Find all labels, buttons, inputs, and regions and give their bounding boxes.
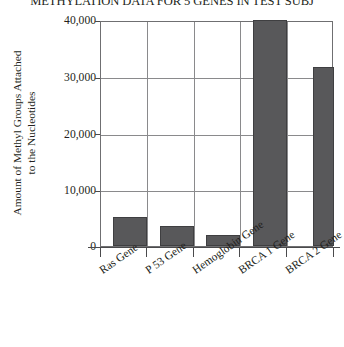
x-tick-mark-4 bbox=[286, 248, 287, 257]
y-axis-title-line-2: to the Nucleotides bbox=[24, 92, 38, 175]
chart-title: METHYLATION DATA FOR 5 GENES IN TEST SUB… bbox=[0, 0, 344, 9]
y-axis-title-line-1: Amount of Methyl Groups Attached bbox=[10, 50, 24, 215]
y-tick-label-20000: 20,000 bbox=[42, 129, 96, 141]
gridline-20000 bbox=[101, 135, 332, 136]
x-axis-labels: Ras Gene P 53 Gene Hemoglobin Gene BRCA … bbox=[0, 258, 344, 347]
y-tick-label-40000: 40,000 bbox=[42, 15, 96, 27]
x-tick-mark-2 bbox=[193, 248, 194, 257]
gridline-vertical-1 bbox=[147, 22, 148, 246]
gridline-vertical-4 bbox=[287, 22, 288, 246]
y-tick-label-10000: 10,000 bbox=[42, 185, 96, 197]
x-tick-mark-3 bbox=[239, 248, 240, 257]
bar-brca-2-gene[interactable] bbox=[313, 67, 334, 246]
x-tick-mark-5 bbox=[333, 248, 334, 257]
gridline-vertical-3 bbox=[240, 22, 241, 246]
x-tick-mark-0 bbox=[100, 248, 101, 257]
plot-area bbox=[100, 21, 333, 247]
chart-figure: METHYLATION DATA FOR 5 GENES IN TEST SUB… bbox=[0, 0, 344, 347]
gridline-10000 bbox=[101, 191, 332, 192]
gridline-vertical-2 bbox=[194, 22, 195, 246]
bar-brca-1-gene[interactable] bbox=[253, 20, 287, 246]
y-axis-title: Amount of Methyl Groups Attached to the … bbox=[2, 18, 46, 248]
y-tick-label-30000: 30,000 bbox=[42, 72, 96, 84]
gridline-30000 bbox=[101, 78, 332, 79]
x-tick-mark-1 bbox=[146, 248, 147, 257]
